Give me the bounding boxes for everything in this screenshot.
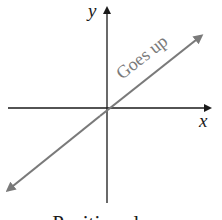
positive-slope-line-lower [8, 116, 100, 190]
x-axis-label: x [198, 110, 208, 131]
y-axis-label: y [86, 0, 97, 21]
line-label: Goes up [112, 31, 171, 83]
slope-diagram: y x Goes up Positive slope [0, 0, 222, 220]
caption: Positive slope [52, 211, 169, 220]
